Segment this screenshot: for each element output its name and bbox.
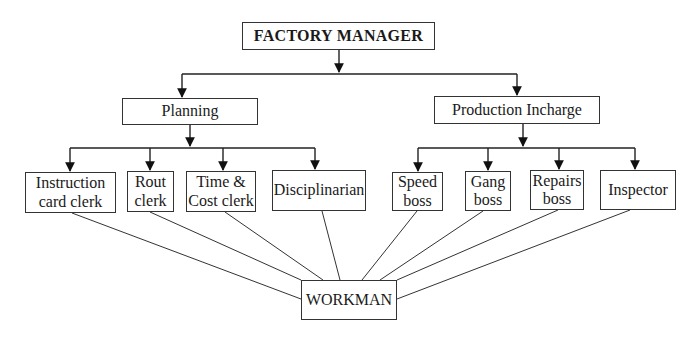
rout-clerk-label: Rout clerk <box>135 173 167 210</box>
repairs-boss-node: Repairs boss <box>530 170 584 210</box>
gang-boss-label: Gang boss <box>471 173 506 210</box>
disciplinarian-node: Disciplinarian <box>272 170 366 211</box>
time-cost-clerk-node: Time & Cost clerk <box>186 171 256 212</box>
disciplinarian-label: Disciplinarian <box>274 181 365 199</box>
time-cost-clerk-label: Time & Cost clerk <box>188 173 253 210</box>
speed-boss-node: Speed boss <box>392 172 443 211</box>
inspector-node: Inspector <box>600 170 676 210</box>
instruction-card-clerk-node: Instruction card clerk <box>25 172 116 213</box>
planning-node: Planning <box>122 98 258 125</box>
production-incharge-node: Production Incharge <box>434 96 600 124</box>
planning-label: Planning <box>162 102 219 120</box>
workman-node: WORKMAN <box>301 280 397 320</box>
factory-manager-node: FACTORY MANAGER <box>242 22 435 50</box>
production-incharge-label: Production Incharge <box>452 101 582 119</box>
inspector-label: Inspector <box>608 181 668 199</box>
speed-boss-label: Speed boss <box>398 173 437 210</box>
workman-label: WORKMAN <box>306 291 392 309</box>
gang-boss-node: Gang boss <box>465 171 511 211</box>
rout-clerk-node: Rout clerk <box>127 171 174 212</box>
repairs-boss-label: Repairs boss <box>533 172 582 209</box>
instruction-card-clerk-label: Instruction card clerk <box>36 174 105 211</box>
factory-manager-label: FACTORY MANAGER <box>254 27 423 45</box>
